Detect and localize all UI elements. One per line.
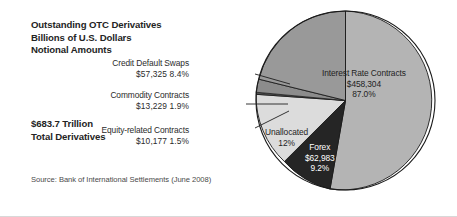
callout-equity-name: Equity-related Contracts xyxy=(102,125,189,136)
callout-commodity-detail: $13,229 1.9% xyxy=(110,101,189,112)
pie-label-irc-percent: 87.0% xyxy=(322,89,406,100)
pie-label-unallocated-name: Unallocated xyxy=(265,127,308,138)
pie-label-forex-percent: 9.2% xyxy=(305,163,335,174)
chart-figure: Outstanding OTC Derivatives Billions of … xyxy=(0,0,457,217)
callout-commodity-name: Commodity Contracts xyxy=(110,90,189,101)
pie-label-irc-value: $458,304 xyxy=(322,79,406,90)
pie-label-forex-name: Forex xyxy=(305,142,335,153)
callout-cds-name: Credit Default Swaps xyxy=(112,58,189,69)
pie-label-forex-value: $62,983 xyxy=(305,153,335,164)
leader-line-equity-related xyxy=(255,111,289,128)
callout-cds-detail: $57,325 8.4% xyxy=(112,69,189,80)
callout-credit-default-swaps: Credit Default Swaps $57,325 8.4% xyxy=(112,58,189,79)
pie-label-unallocated-percent: 12% xyxy=(265,138,308,149)
pie-label-irc-name: Interest Rate Contracts xyxy=(322,68,406,79)
pie-label-interest-rate: Interest Rate Contracts $458,304 87.0% xyxy=(322,68,406,100)
callout-equity-detail: $10,177 1.5% xyxy=(102,136,189,147)
pie-label-unallocated: Unallocated 12% xyxy=(265,127,308,148)
callout-equity-related-contracts: Equity-related Contracts $10,177 1.5% xyxy=(102,125,189,146)
callout-commodity-contracts: Commodity Contracts $13,229 1.9% xyxy=(110,90,189,111)
pie-label-forex: Forex $62,983 9.2% xyxy=(305,142,335,174)
leader-lines xyxy=(0,0,457,217)
leader-line-credit-default-swaps xyxy=(255,74,290,84)
